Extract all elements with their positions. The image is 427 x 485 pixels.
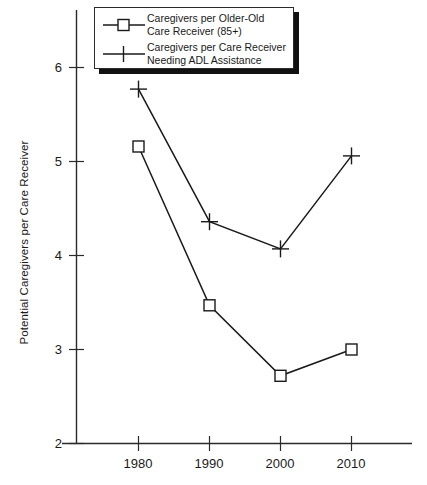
series-markers-adl (130, 81, 360, 258)
chart-legend: Caregivers per Older-Old Care Receiver (… (94, 7, 294, 69)
legend-plus-marker-icon (101, 43, 147, 65)
legend-label-older-old-line2: Care Receiver (85+) (147, 25, 264, 38)
x-tick-label-2010: 2010 (321, 457, 381, 470)
legend-item-adl: Caregivers per Care Receiver Needing ADL… (95, 39, 293, 68)
y-tick-label-6: 6 (38, 61, 62, 74)
series-line-older-old (139, 147, 352, 376)
x-tick-label-1990: 1990 (179, 457, 239, 470)
legend-label-adl-line2: Needing ADL Assistance (147, 54, 286, 67)
x-tick-label-2000: 2000 (250, 457, 310, 470)
y-tick-label-5: 5 (38, 155, 62, 168)
chart-container: Potential Caregivers per Care Receiver (0, 0, 427, 485)
series-line-adl (139, 89, 352, 249)
legend-square-marker-icon (101, 14, 147, 36)
legend-label-adl-line1: Caregivers per Care Receiver (147, 41, 286, 54)
legend-label-older-old-line1: Caregivers per Older-Old (147, 12, 264, 25)
y-tick-label-3: 3 (38, 343, 62, 356)
x-tick-label-1980: 1980 (108, 457, 168, 470)
legend-label-older-old: Caregivers per Older-Old Care Receiver (… (147, 12, 264, 37)
legend-item-older-old: Caregivers per Older-Old Care Receiver (… (95, 10, 293, 39)
legend-label-adl: Caregivers per Care Receiver Needing ADL… (147, 41, 286, 66)
y-tick-label-2: 2 (38, 437, 62, 450)
y-tick-label-4: 4 (38, 249, 62, 262)
series-markers-older-old (133, 141, 357, 381)
